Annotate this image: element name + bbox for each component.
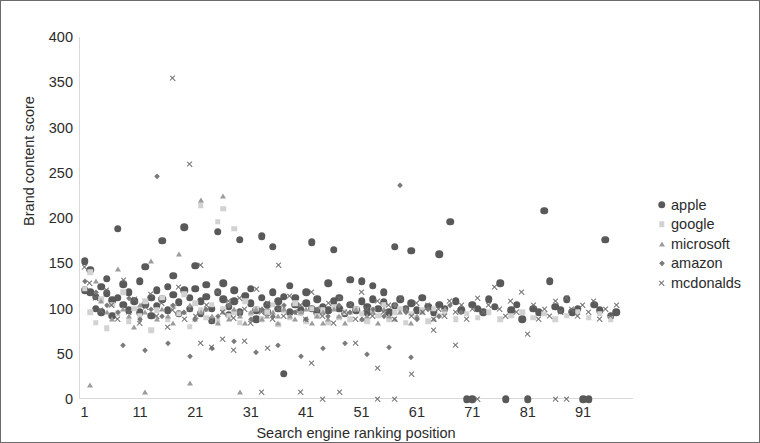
data-point-mcdonalds (286, 293, 293, 300)
data-point-microsoft (275, 313, 281, 318)
data-point-mcdonalds (375, 396, 382, 403)
data-point-apple (208, 305, 216, 313)
data-point-apple (496, 279, 504, 287)
data-point-google (331, 304, 337, 310)
data-point-apple (452, 298, 460, 306)
data-point-amazon (171, 302, 176, 307)
data-point-google (87, 270, 93, 276)
legend-item-microsoft[interactable]: microsoft (656, 234, 760, 254)
data-point-apple (142, 301, 150, 309)
data-point-apple (164, 307, 172, 315)
legend-item-amazon[interactable]: amazon (656, 254, 760, 274)
data-point-amazon (154, 174, 159, 179)
data-point-microsoft (220, 310, 226, 315)
data-point-apple (463, 395, 471, 403)
data-point-apple (258, 232, 266, 240)
legend-marker-mcdonalds-icon (656, 277, 667, 288)
data-point-google (220, 306, 226, 312)
data-point-google (154, 308, 160, 314)
data-point-google (109, 302, 115, 308)
data-point-mcdonalds (392, 316, 399, 323)
data-point-apple (441, 305, 449, 313)
data-point-google (165, 317, 171, 323)
data-point-mcdonalds (425, 302, 432, 309)
legend-label: amazon (671, 256, 723, 271)
x-tick-label: 91 (575, 405, 591, 420)
data-point-google (425, 318, 431, 324)
data-point-google (519, 309, 525, 315)
data-point-mcdonalds (597, 316, 604, 323)
data-point-google (182, 291, 188, 297)
data-point-apple (208, 317, 216, 325)
data-point-mcdonalds (602, 305, 609, 312)
data-point-apple (219, 296, 227, 304)
data-point-apple (103, 289, 111, 297)
data-point-apple (197, 298, 205, 306)
data-point-google (270, 302, 276, 308)
data-point-amazon (104, 302, 109, 307)
data-point-google (193, 300, 199, 306)
data-point-google (170, 304, 176, 310)
chart-legend: applegooglemicrosoftamazonmcdonalds (656, 195, 760, 293)
data-point-amazon (409, 355, 414, 360)
data-point-google (398, 306, 404, 312)
legend-item-google[interactable]: google (656, 215, 760, 235)
data-point-apple (313, 308, 321, 316)
data-point-google (215, 318, 221, 324)
y-axis-tick-labels: 050100150200250300350400 (31, 37, 73, 399)
legend-item-mcdonalds[interactable]: mcdonalds (656, 273, 760, 293)
data-point-amazon (209, 346, 214, 351)
y-tick-label: 350 (49, 75, 73, 90)
data-point-google (326, 320, 332, 326)
legend-marker-google-icon (656, 219, 667, 230)
data-point-apple (408, 247, 416, 255)
data-point-google (420, 308, 426, 314)
data-point-apple (469, 395, 477, 403)
data-point-apple (291, 301, 299, 309)
data-point-mcdonalds (563, 294, 570, 301)
data-point-amazon (93, 290, 98, 295)
data-point-amazon (392, 302, 397, 307)
data-point-apple (147, 312, 155, 320)
data-point-apple (131, 298, 139, 306)
x-tick-label: 1 (80, 405, 88, 420)
data-point-amazon (248, 317, 253, 322)
legend-item-apple[interactable]: apple (656, 195, 760, 215)
data-point-microsoft (331, 306, 337, 311)
data-point-mcdonalds (264, 345, 271, 352)
data-point-mcdonalds (403, 305, 410, 312)
data-point-apple (97, 308, 105, 316)
data-point-microsoft (314, 313, 320, 318)
data-point-apple (186, 305, 194, 313)
data-point-apple (336, 305, 344, 313)
data-point-microsoft (203, 306, 209, 311)
data-point-google (353, 306, 359, 312)
data-point-apple (485, 296, 493, 304)
data-point-apple (136, 308, 144, 316)
y-tick-label: 50 (57, 347, 73, 362)
data-point-microsoft (93, 279, 99, 284)
data-point-google (115, 310, 121, 316)
data-point-amazon (121, 342, 126, 347)
data-point-apple (435, 301, 443, 309)
data-point-apple (92, 293, 100, 301)
data-point-mcdonalds (103, 287, 110, 294)
data-point-amazon (298, 353, 303, 358)
data-point-mcdonalds (508, 298, 515, 305)
data-point-mcdonalds (259, 389, 266, 396)
data-point-apple (507, 307, 515, 315)
data-point-mcdonalds (220, 309, 227, 316)
data-point-microsoft (142, 389, 148, 394)
data-point-google (359, 311, 365, 317)
data-point-microsoft (231, 306, 237, 311)
data-point-mcdonalds (264, 300, 271, 307)
data-point-mcdonalds (231, 347, 238, 354)
data-point-google (187, 324, 193, 330)
data-point-microsoft (320, 310, 326, 315)
data-point-google (98, 297, 104, 303)
data-point-google (215, 219, 221, 225)
data-point-microsoft (104, 310, 110, 315)
data-point-microsoft (176, 252, 182, 257)
data-point-mcdonalds (187, 305, 194, 312)
data-point-google (403, 320, 409, 326)
